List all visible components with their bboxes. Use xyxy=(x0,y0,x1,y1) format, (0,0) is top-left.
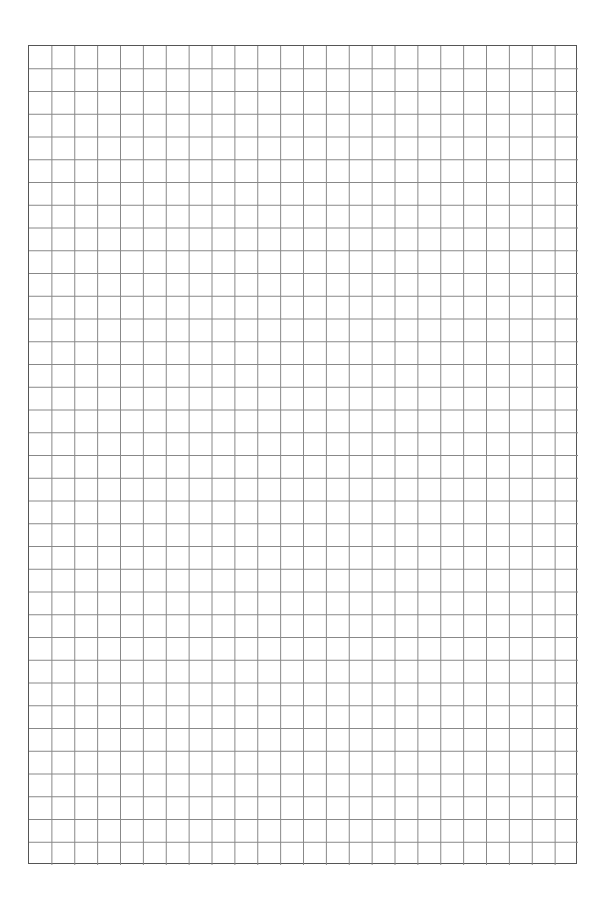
graph-paper-grid xyxy=(28,45,577,864)
grid-lines xyxy=(29,46,578,865)
